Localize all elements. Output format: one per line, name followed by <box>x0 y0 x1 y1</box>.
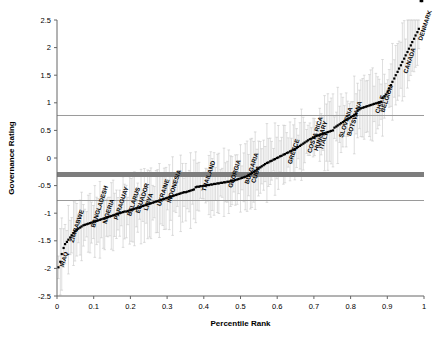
data-point <box>64 243 66 245</box>
data-point <box>391 81 393 83</box>
x-tick-label: 0.2 <box>125 302 135 311</box>
x-tick-label: 0.3 <box>162 302 172 311</box>
y-axis-title: Governance Rating <box>7 121 16 194</box>
data-point <box>413 38 415 40</box>
y-tick-label: 1.5 <box>41 71 51 80</box>
error-bar <box>416 20 419 65</box>
data-point <box>421 0 423 2</box>
y-tick-label: 1 <box>47 98 51 107</box>
x-tick-label: 1 <box>422 302 426 311</box>
data-point <box>332 129 334 131</box>
y-tick-label: -1 <box>44 209 51 218</box>
y-tick-label: -1.5 <box>38 236 51 245</box>
data-point <box>400 64 402 66</box>
y-tick-label: -2 <box>44 264 51 273</box>
x-tick-label: 0.9 <box>382 302 392 311</box>
y-tick-label: -2.5 <box>38 292 51 301</box>
error-bars <box>57 20 420 295</box>
x-tick-label: 0.7 <box>309 302 319 311</box>
error-bar <box>413 20 416 72</box>
x-tick-label: 0.8 <box>345 302 355 311</box>
y-tick-label: 2 <box>47 43 51 52</box>
data-point <box>395 74 397 76</box>
x-tick-label: 0.1 <box>88 302 98 311</box>
y-tick-label: 2.5 <box>41 16 51 25</box>
data-point <box>411 41 413 43</box>
data-points <box>57 0 423 268</box>
x-axis-title: Percentile Rank <box>210 319 271 328</box>
y-tick-label: 0.5 <box>41 126 51 135</box>
data-point <box>63 247 65 249</box>
y-tick-label: -0.5 <box>38 181 51 190</box>
x-tick-label: 0.5 <box>235 302 245 311</box>
country-label: IRAQ <box>58 251 69 268</box>
data-point <box>193 188 195 190</box>
data-point <box>401 61 403 63</box>
x-tick-label: 0.4 <box>199 302 209 311</box>
y-tick-label: 0 <box>47 154 51 163</box>
x-tick-label: 0.6 <box>272 302 282 311</box>
data-point <box>393 77 395 79</box>
error-bar <box>414 20 417 67</box>
data-point <box>410 44 412 46</box>
x-tick-label: 0 <box>55 302 59 311</box>
chart-figure: 2.521.510.50-0.5-1-1.5-2-2.500.10.20.30.… <box>0 0 437 343</box>
data-point <box>396 71 398 73</box>
scatter-plot-svg: 2.521.510.50-0.5-1-1.5-2-2.500.10.20.30.… <box>0 0 437 343</box>
data-point <box>398 67 400 69</box>
